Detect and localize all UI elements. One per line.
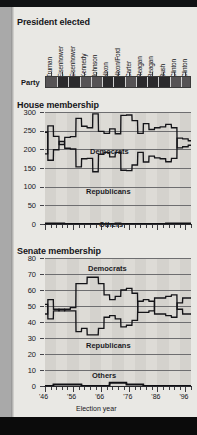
party-color-bar xyxy=(45,76,191,88)
x-axis-minor-tick xyxy=(90,387,91,390)
party-segment xyxy=(113,77,124,87)
y-axis-tick-label: 30 xyxy=(14,334,36,343)
house-label-republicans: Republicans xyxy=(86,187,131,196)
x-axis-minor-tick xyxy=(84,387,85,390)
y-axis-tick-label: 70 xyxy=(14,270,36,279)
senate-label-democrats: Democrats xyxy=(88,264,127,273)
x-axis-minor-tick xyxy=(163,225,164,228)
x-axis-minor-tick xyxy=(169,225,170,228)
x-axis-major-tick xyxy=(185,225,186,230)
party-segment-divider xyxy=(125,77,126,87)
y-axis-tick-label: 250 xyxy=(14,126,36,135)
x-axis-tick-label: '76 xyxy=(123,393,132,400)
x-axis-minor-tick xyxy=(96,225,97,228)
x-axis-tick-label: '56 xyxy=(67,393,76,400)
x-axis-minor-tick xyxy=(191,387,192,390)
y-axis-tick-label: 100 xyxy=(14,182,36,191)
x-axis-minor-tick xyxy=(124,225,125,228)
house-plot-area xyxy=(45,112,191,224)
party-segment-divider xyxy=(147,77,148,87)
y-axis-tick xyxy=(40,274,44,275)
bottom-frame-bar xyxy=(0,417,197,435)
x-axis-minor-tick xyxy=(51,225,52,228)
x-axis-minor-tick xyxy=(146,387,147,390)
party-segment-divider xyxy=(158,77,159,87)
senate-membership-chart: Senate membership '46'56'66'76'86'96 Dem… xyxy=(0,242,197,417)
y-axis-tick xyxy=(40,187,44,188)
party-segment-divider xyxy=(80,77,81,87)
x-axis-minor-tick xyxy=(112,387,113,390)
party-segment-divider xyxy=(57,77,58,87)
x-axis-major-tick xyxy=(45,387,46,392)
y-axis-tick xyxy=(40,112,44,113)
party-segment xyxy=(147,77,158,87)
x-axis-minor-tick xyxy=(191,225,192,228)
party-row-label: Party xyxy=(21,78,40,87)
x-axis-minor-tick xyxy=(135,387,136,390)
x-axis-minor-tick xyxy=(152,225,153,228)
x-axis-minor-tick xyxy=(107,387,108,390)
x-axis-minor-tick xyxy=(118,387,119,390)
x-axis-tick-label: '46 xyxy=(39,393,48,400)
y-axis-tick-label: 0 xyxy=(14,220,36,229)
y-axis-tick xyxy=(40,149,44,150)
x-axis-minor-tick xyxy=(51,387,52,390)
x-axis-minor-tick xyxy=(67,225,68,228)
x-axis-minor-tick xyxy=(62,387,63,390)
party-segment-divider xyxy=(91,77,92,87)
y-axis-tick xyxy=(40,338,44,339)
party-segment xyxy=(158,77,169,87)
party-segment-divider xyxy=(113,77,114,87)
y-axis-tick-label: 50 xyxy=(14,201,36,210)
x-axis-minor-tick xyxy=(146,225,147,228)
x-axis-minor-tick xyxy=(174,225,175,228)
series-layer xyxy=(45,258,191,386)
x-axis-minor-tick xyxy=(67,387,68,390)
y-axis-tick xyxy=(40,354,44,355)
x-axis-minor-tick xyxy=(90,225,91,228)
party-segment xyxy=(46,77,57,87)
x-axis-major-tick xyxy=(129,225,130,230)
party-segment-divider xyxy=(181,77,182,87)
y-axis-tick xyxy=(40,168,44,169)
y-axis-tick xyxy=(40,290,44,291)
x-axis-minor-tick xyxy=(163,387,164,390)
x-axis-major-tick xyxy=(45,225,46,230)
party-segment xyxy=(181,77,191,87)
x-axis-minor-tick xyxy=(56,387,57,390)
y-axis-tick-label: 300 xyxy=(14,108,36,117)
party-segment xyxy=(136,77,147,87)
y-axis-tick-label: 150 xyxy=(14,164,36,173)
x-axis-major-tick xyxy=(73,387,74,392)
party-segment xyxy=(68,77,79,87)
series-line-democrats xyxy=(45,277,191,314)
x-axis-title: Election year xyxy=(76,405,116,412)
x-axis-minor-tick xyxy=(79,225,80,228)
senate-label-others: Others xyxy=(92,371,116,380)
party-segment xyxy=(102,77,113,87)
x-axis-major-tick xyxy=(157,225,158,230)
party-segment xyxy=(91,77,102,87)
y-axis-tick-label: 80 xyxy=(14,254,36,263)
y-axis-tick xyxy=(40,258,44,259)
series-layer xyxy=(45,112,191,224)
party-segment xyxy=(80,77,91,87)
party-segment xyxy=(170,77,181,87)
senate-label-republicans: Republicans xyxy=(86,341,131,350)
x-axis-minor-tick xyxy=(124,387,125,390)
y-axis-tick-label: 200 xyxy=(14,145,36,154)
x-axis-minor-tick xyxy=(79,387,80,390)
page-root: President elected TrumanEisenhowerEisenh… xyxy=(0,0,197,435)
y-axis-tick-label: 50 xyxy=(14,302,36,311)
x-axis-minor-tick xyxy=(174,387,175,390)
x-axis-tick-label: '86 xyxy=(151,393,160,400)
party-segment-divider xyxy=(136,77,137,87)
series-line-republicans xyxy=(45,298,191,335)
party-segment-divider xyxy=(68,77,69,87)
x-axis-minor-tick xyxy=(180,225,181,228)
x-axis-line xyxy=(44,386,192,387)
y-axis-tick xyxy=(40,306,44,307)
x-axis-minor-tick xyxy=(140,387,141,390)
x-axis-minor-tick xyxy=(140,225,141,228)
party-segment-divider xyxy=(170,77,171,87)
